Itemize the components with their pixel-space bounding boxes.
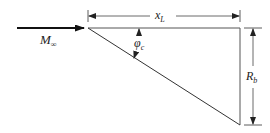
angle-subscript: c bbox=[141, 43, 145, 52]
cone-profile-triangle bbox=[88, 28, 240, 125]
cone-geometry-diagram: M∞ xL Rb φc bbox=[0, 0, 270, 133]
freestream-mach-label: M∞ bbox=[40, 33, 57, 49]
radius-subscript: b bbox=[253, 76, 257, 85]
cone-angle-label: φc bbox=[134, 37, 144, 52]
diagram-graphics bbox=[0, 0, 270, 133]
mach-subscript: ∞ bbox=[51, 40, 57, 49]
angle-symbol: φ bbox=[134, 36, 141, 50]
length-label: xL bbox=[155, 9, 165, 24]
mach-symbol: M bbox=[40, 32, 51, 47]
base-radius-label: Rb bbox=[246, 70, 257, 85]
length-subscript: L bbox=[160, 15, 164, 24]
